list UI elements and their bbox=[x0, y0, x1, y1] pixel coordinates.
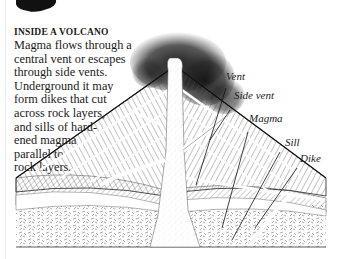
label-magma: Magma bbox=[249, 112, 283, 124]
label-vent: Vent bbox=[226, 70, 245, 82]
illustration-page: INSIDE A VOLCANO Magma flows through a c… bbox=[0, 0, 339, 259]
volcano-cross-section bbox=[0, 0, 339, 259]
label-side-vent: Side vent bbox=[234, 89, 274, 101]
label-dike: Dike bbox=[300, 152, 321, 164]
label-sill: Sill bbox=[285, 136, 300, 148]
